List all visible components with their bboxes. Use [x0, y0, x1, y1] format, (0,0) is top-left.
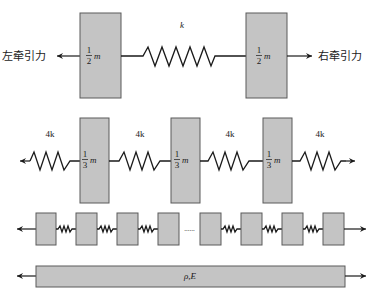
svg-text:3: 3 [267, 160, 272, 170]
small-mass-4 [158, 213, 179, 245]
svg-text:1: 1 [175, 149, 180, 159]
svg-text:1: 1 [83, 149, 88, 159]
continuum-label: ρ,E [183, 271, 197, 281]
spring-icon [97, 226, 117, 232]
small-mass-2 [76, 213, 97, 245]
spring-label-3: 4k [226, 129, 236, 139]
svg-text:1: 1 [267, 149, 272, 159]
svg-text:m: m [264, 51, 271, 61]
small-mass-8 [323, 213, 344, 245]
spring-icon [121, 47, 246, 66]
spring-icon [221, 226, 241, 232]
left-force-label: 左牵引力 [2, 49, 46, 63]
spring-icon [56, 226, 76, 232]
row-many-masses: ...... [17, 213, 366, 245]
svg-text:2: 2 [257, 56, 262, 66]
small-mass-5 [200, 213, 221, 245]
spring-icon [303, 226, 323, 232]
svg-text:1: 1 [87, 45, 92, 55]
small-mass-1 [36, 213, 56, 245]
spring-icon [262, 226, 282, 232]
small-mass-3 [117, 213, 138, 245]
spring-icon [200, 152, 263, 170]
svg-text:m: m [90, 155, 97, 165]
spring-label-4: 4k [316, 129, 326, 139]
spring-label-2: 4k [136, 129, 146, 139]
spring-icon [138, 226, 158, 232]
svg-text:3: 3 [175, 160, 180, 170]
ellipsis: ...... [184, 225, 195, 233]
small-mass-6 [241, 213, 262, 245]
svg-text:1: 1 [257, 45, 262, 55]
svg-text:m: m [182, 155, 189, 165]
svg-text:3: 3 [83, 160, 88, 170]
right-force-label: 右牵引力 [318, 49, 362, 63]
spring-k-label: k [180, 20, 185, 30]
spring-icon [30, 152, 80, 170]
row-three-third-masses: 4k 4k 4k 4k 1 3 m 1 3 m 1 3 m [20, 118, 355, 203]
svg-text:2: 2 [87, 56, 92, 66]
spring-icon [292, 152, 346, 170]
row-continuum-bar: ρ,E [17, 266, 366, 287]
svg-text:m: m [94, 51, 101, 61]
spring-mass-diagram: 左牵引力 1 2 m k 1 2 m 右牵引力 4k 4k 4k 4k [0, 0, 372, 297]
small-mass-7 [282, 213, 303, 245]
spring-icon [109, 152, 171, 170]
row-two-half-masses: 左牵引力 1 2 m k 1 2 m 右牵引力 [2, 13, 362, 98]
svg-text:m: m [274, 155, 281, 165]
spring-label-1: 4k [46, 129, 56, 139]
